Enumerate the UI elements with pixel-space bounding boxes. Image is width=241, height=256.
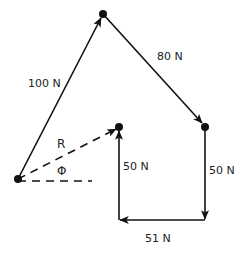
label-resultant-r: R	[57, 137, 65, 151]
top-point	[99, 10, 107, 18]
label-100n: 100 N	[28, 77, 61, 90]
end-point	[115, 123, 123, 131]
right-point	[201, 123, 209, 131]
label-50n-right: 50 N	[209, 164, 235, 177]
origin-point	[14, 175, 22, 183]
resultant-r-arrow	[18, 129, 116, 179]
label-angle-phi: Φ	[57, 164, 66, 178]
vector-diagram: 100 N 80 N 50 N 50 N 51 N R Φ	[0, 0, 241, 256]
label-80n: 80 N	[157, 50, 183, 63]
vector-80n-arrow	[103, 14, 202, 123]
label-51n: 51 N	[145, 232, 171, 245]
label-50n-left: 50 N	[123, 160, 149, 173]
vector-100n-arrow	[18, 18, 101, 179]
